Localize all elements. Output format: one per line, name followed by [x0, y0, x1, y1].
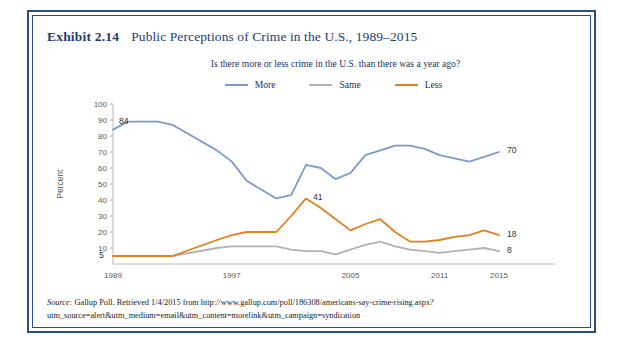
annotation-more-70: 70 — [507, 145, 517, 155]
x-tick-label: 2005 — [342, 271, 360, 280]
exhibit-header: Exhibit 2.14 Public Perceptions of Crime… — [47, 29, 417, 45]
series-line-more — [113, 122, 499, 199]
exhibit-title: Public Perceptions of Crime in the U.S.,… — [131, 29, 417, 45]
y-axis: 102030405060708090100 — [94, 100, 113, 264]
x-tick-label: 2015 — [490, 271, 508, 280]
series-line-same — [113, 242, 499, 256]
plot-area: 102030405060708090100 198919972005201120… — [29, 96, 594, 296]
legend-label-more: More — [255, 79, 276, 90]
series-line-less — [113, 198, 499, 256]
x-tick-label: 1989 — [104, 271, 122, 280]
legend-item-less: Less — [395, 79, 443, 90]
chart-subtitle: Is there more or less crime in the U.S. … — [29, 58, 594, 69]
annotation-same-8: 8 — [507, 245, 512, 255]
annotation-less-41: 41 — [313, 192, 323, 202]
y-tick-label: 80 — [98, 132, 107, 141]
y-tick-label: 70 — [98, 148, 107, 157]
chart-container: Is there more or less crime in the U.S. … — [29, 58, 594, 296]
line-chart-svg: 102030405060708090100 198919972005201120… — [29, 96, 598, 296]
x-tick-label: 2011 — [431, 271, 449, 280]
y-tick-label: 100 — [94, 100, 108, 109]
annotation-less-18: 18 — [507, 229, 517, 239]
y-tick-label: 60 — [98, 164, 107, 173]
y-tick-label: 90 — [98, 116, 107, 125]
legend-label-less: Less — [425, 79, 443, 90]
y-tick-label: 40 — [98, 196, 107, 205]
y-tick-label: 20 — [98, 228, 107, 237]
source-label: Source: — [47, 298, 73, 307]
y-axis-title: Percent — [55, 169, 65, 199]
x-tick-label: 1997 — [223, 271, 241, 280]
legend-swatch-more — [225, 84, 248, 86]
source-note: Source: Gallup Poll. Retrieved 1/4/2015 … — [47, 297, 578, 323]
y-tick-label: 30 — [98, 212, 107, 221]
data-annotations: 8470411885 — [99, 116, 517, 260]
exhibit-number: Exhibit 2.14 — [47, 29, 119, 45]
source-text: Gallup Poll. Retrieved 1/4/2015 from htt… — [47, 298, 434, 320]
y-tick-label: 50 — [98, 180, 107, 189]
annotation-less-5: 5 — [99, 250, 104, 260]
legend-item-more: More — [225, 79, 276, 90]
exhibit-frame: Exhibit 2.14 Public Perceptions of Crime… — [27, 10, 596, 333]
chart-legend: More Same Less — [29, 79, 594, 90]
data-series-group — [113, 122, 499, 256]
legend-swatch-same — [309, 84, 332, 86]
legend-label-same: Same — [339, 79, 360, 90]
x-axis: 19891997200520112015 — [104, 264, 555, 280]
annotation-more-84: 84 — [119, 116, 129, 126]
legend-item-same: Same — [309, 79, 360, 90]
legend-swatch-less — [395, 84, 418, 86]
